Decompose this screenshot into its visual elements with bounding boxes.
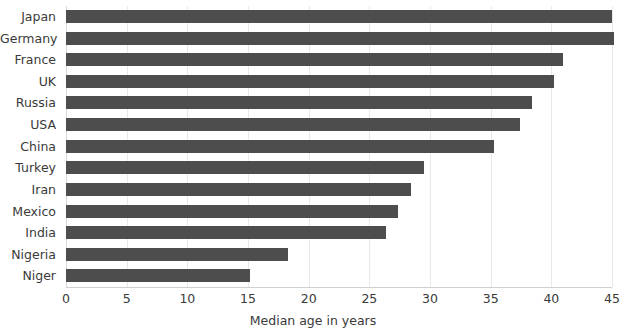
x-axis-tick-20: 20 bbox=[301, 291, 317, 306]
y-axis-label-china: China bbox=[0, 140, 56, 153]
bar-row bbox=[66, 179, 612, 201]
bar-row bbox=[66, 265, 612, 287]
y-axis-label-france: France bbox=[0, 53, 56, 66]
y-axis-label-niger: Niger bbox=[0, 269, 56, 282]
y-axis-label-nigeria: Nigeria bbox=[0, 248, 56, 261]
y-axis-label-germany: Germany bbox=[0, 32, 56, 45]
x-axis-title: Median age in years bbox=[0, 313, 626, 328]
y-axis-label-mexico: Mexico bbox=[0, 205, 56, 218]
bar-france bbox=[66, 53, 563, 66]
bar-japan bbox=[66, 10, 612, 23]
x-axis-tick-10: 10 bbox=[179, 291, 195, 306]
x-axis-tick-45: 45 bbox=[604, 291, 620, 306]
x-axis-tick-0: 0 bbox=[62, 291, 70, 306]
bar-russia bbox=[66, 96, 532, 109]
bar-row bbox=[66, 136, 612, 158]
bar-mexico bbox=[66, 205, 398, 218]
x-axis-tick-5: 5 bbox=[123, 291, 131, 306]
bar-niger bbox=[66, 269, 250, 282]
x-axis-tick-35: 35 bbox=[483, 291, 499, 306]
y-axis-label-turkey: Turkey bbox=[0, 161, 56, 174]
bar-china bbox=[66, 140, 494, 153]
x-axis-tick-25: 25 bbox=[361, 291, 377, 306]
x-axis-tick-40: 40 bbox=[543, 291, 559, 306]
y-axis-label-india: India bbox=[0, 226, 56, 239]
bar-chart: JapanGermanyFranceUKRussiaUSAChinaTurkey… bbox=[0, 0, 626, 335]
bar-row bbox=[66, 6, 612, 28]
y-axis-label-iran: Iran bbox=[0, 183, 56, 196]
plot-area bbox=[66, 6, 612, 287]
bar-row bbox=[66, 222, 612, 244]
y-axis-label-japan: Japan bbox=[0, 10, 56, 23]
gridline-45 bbox=[612, 6, 613, 287]
x-axis-tick-30: 30 bbox=[422, 291, 438, 306]
bar-india bbox=[66, 226, 386, 239]
x-axis-line bbox=[66, 287, 612, 288]
bar-row bbox=[66, 71, 612, 93]
bar-row bbox=[66, 244, 612, 266]
x-axis-tick-15: 15 bbox=[240, 291, 256, 306]
bar-usa bbox=[66, 118, 520, 131]
bar-turkey bbox=[66, 161, 424, 174]
y-axis-labels: JapanGermanyFranceUKRussiaUSAChinaTurkey… bbox=[0, 6, 56, 287]
bar-iran bbox=[66, 183, 411, 196]
bar-germany bbox=[66, 32, 614, 45]
bar-row bbox=[66, 201, 612, 223]
bar-row bbox=[66, 114, 612, 136]
y-axis-label-russia: Russia bbox=[0, 96, 56, 109]
bar-uk bbox=[66, 75, 554, 88]
bar-nigeria bbox=[66, 248, 288, 261]
bar-row bbox=[66, 157, 612, 179]
bar-row bbox=[66, 92, 612, 114]
bar-row bbox=[66, 49, 612, 71]
bar-row bbox=[66, 28, 612, 50]
y-axis-label-uk: UK bbox=[0, 75, 56, 88]
y-axis-label-usa: USA bbox=[0, 118, 56, 131]
